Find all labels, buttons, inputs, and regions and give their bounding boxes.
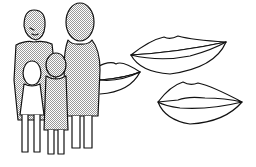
figure-child-boy: [44, 53, 68, 154]
illustration: [0, 0, 256, 167]
figure-adult-woman: [64, 3, 100, 148]
lips-icon-top: [131, 36, 226, 74]
lips-icon-left: [95, 63, 140, 94]
lips-icon-bottom: [158, 82, 242, 124]
figure-child-girl: [20, 61, 44, 152]
